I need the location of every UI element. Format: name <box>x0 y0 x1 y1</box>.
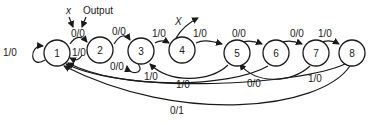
transition-label-1-1: 1/0 <box>3 47 17 58</box>
transition-label-5-6: 0/0 <box>232 28 246 39</box>
transition-label-1-2: 0/0 <box>71 28 85 39</box>
edge-8-1-b <box>64 66 350 105</box>
transition-label-8-1-b: 0/1 <box>170 105 184 116</box>
edge-1-1 <box>33 46 45 62</box>
state-label: 7 <box>313 48 319 59</box>
state-6: 6 <box>263 40 289 66</box>
transition-label-2-1: 1/0 <box>72 47 86 58</box>
transition-label-2-3: 0/0 <box>112 26 126 37</box>
state-1: 1 <box>44 40 70 66</box>
state-label: 2 <box>97 45 103 56</box>
transition-label-7-5: 0/0 <box>247 78 261 89</box>
transition-label-3-3: 0/0 <box>110 61 124 72</box>
output-annotation: Output <box>83 5 113 16</box>
input-pointer <box>69 17 73 27</box>
transition-label-3-4: 1/0 <box>152 28 166 39</box>
state-4: 4 <box>169 37 195 63</box>
edge-2-3 <box>114 36 130 44</box>
edge-4-5 <box>196 41 222 44</box>
edge-3-3 <box>127 64 140 73</box>
edge-3-4 <box>155 41 169 43</box>
input-annotation: x <box>65 5 72 16</box>
state-7: 7 <box>303 40 329 66</box>
edge-8-1-a <box>66 64 345 84</box>
transition-label-4-5: 1/0 <box>193 28 207 39</box>
state-8: 8 <box>339 40 365 66</box>
transition-label-6-7: 0/0 <box>290 28 304 39</box>
transition-label-7-8: 1/0 <box>318 28 332 39</box>
state-label: 1 <box>54 48 60 59</box>
transition-label-5-3: 1/0 <box>144 71 158 82</box>
state-5: 5 <box>224 40 250 66</box>
state-label: 5 <box>234 48 240 59</box>
state-label: 3 <box>138 46 144 57</box>
edge-5-3 <box>150 64 228 78</box>
state-2: 2 <box>87 37 113 63</box>
transition-label-8-1-a: 1/0 <box>308 73 322 84</box>
state-label: 6 <box>273 48 279 59</box>
state-diagram: 1 2 3 4 5 6 7 8 x Output X 1/0 0/0 1/0 0… <box>0 0 378 125</box>
state-3: 3 <box>128 38 154 64</box>
output-pointer <box>82 17 86 27</box>
transition-label-6-1: 1/0 <box>176 79 190 90</box>
exit-annotation: X <box>174 16 182 27</box>
state-label: 4 <box>179 45 185 56</box>
state-label: 8 <box>349 48 355 59</box>
